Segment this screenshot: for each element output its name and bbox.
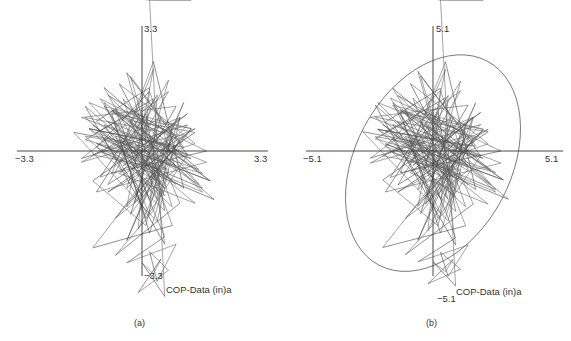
- trajectory-segment-a: [150, 252, 169, 271]
- x-tick-label-min-b: −5.1: [303, 153, 322, 164]
- trajectory-segment-b: [446, 211, 456, 238]
- trajectory-segment-b: [448, 245, 468, 276]
- trajectory-segment-b: [433, 262, 456, 286]
- trajectory-segment-b: [441, 252, 449, 276]
- y-tick-label-min-a: −3.3: [144, 270, 163, 281]
- panel-caption-b: (b): [426, 318, 437, 328]
- y-tick-label-max-b: 5.1: [436, 23, 449, 34]
- annotation-a: COP-Data (in)a: [166, 284, 232, 295]
- x-tick-label-max-b: 5.1: [545, 153, 558, 164]
- trajectory-segment-b: [428, 260, 453, 284]
- x-tick-label-min-a: −3.3: [15, 153, 34, 164]
- trajectory-segment-a: [116, 203, 180, 255]
- trajectory-b: [363, 0, 509, 286]
- panel-caption-a: (a): [134, 318, 145, 328]
- trajectory-a: [74, 0, 214, 296]
- annotation-b: COP-Data (in)a: [456, 286, 522, 297]
- y-tick-label-min-b: −5.1: [437, 293, 456, 304]
- panel-b: −5.1 5.1 5.1 −5.1 COP-Data (in)a (b): [303, 0, 563, 328]
- y-tick-label-max-a: 3.3: [144, 23, 157, 34]
- trajectory-segment-b: [383, 158, 453, 247]
- x-tick-label-max-a: 3.3: [254, 153, 267, 164]
- panel-a: −3.3 3.3 3.3 −3.3 COP-Data (in)a (a): [15, 0, 268, 328]
- figure: −3.3 3.3 3.3 −3.3 COP-Data (in)a (a) −5.…: [0, 0, 571, 341]
- trajectory-segment-a: [127, 237, 165, 263]
